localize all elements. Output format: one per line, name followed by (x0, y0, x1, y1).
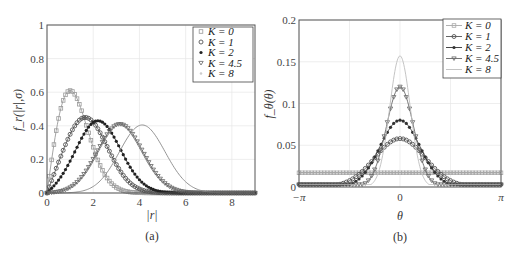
legend-marker (200, 72, 203, 75)
data-point-marker (124, 157, 127, 160)
legend-marker (452, 46, 455, 49)
data-point-marker (112, 135, 115, 138)
data-point-marker (395, 119, 398, 122)
y-tick-label: 0.4 (30, 120, 44, 132)
data-point-marker (59, 175, 62, 178)
x-tick-label: 6 (183, 196, 189, 208)
data-point-marker (115, 140, 118, 143)
data-point-marker (122, 153, 125, 156)
y-tick-label: 0.8 (30, 53, 44, 65)
y-tick-label: 0 (291, 181, 297, 193)
series-k4.5 (45, 123, 257, 195)
data-point-marker (376, 149, 379, 152)
data-point-marker (408, 126, 411, 129)
y-tick-label: 1 (39, 19, 45, 31)
data-point-marker (50, 187, 53, 190)
x-tick-label: 0 (44, 196, 50, 208)
panel-b-legend: K = 0K = 1K = 2K = 4.5K = 8 (443, 19, 501, 78)
data-point-marker (55, 181, 58, 184)
data-point-marker (82, 132, 85, 135)
x-tick-label: 4 (137, 196, 143, 208)
data-point-marker (133, 173, 136, 176)
y-tick-label: 0 (39, 187, 45, 199)
data-point-marker (398, 119, 401, 122)
series-k0 (45, 89, 257, 195)
data-point-marker (117, 144, 120, 147)
panel-a-series (45, 89, 257, 195)
y-tick-label: 0.6 (30, 86, 44, 98)
data-point-marker (52, 184, 55, 187)
legend-label: K = 8 (464, 63, 491, 75)
data-point-marker (443, 180, 446, 183)
data-point-marker (105, 125, 108, 128)
data-point-marker (357, 177, 360, 180)
data-point-marker (85, 129, 88, 132)
data-point-marker (66, 164, 69, 167)
panel-a-xlabel: |r| (146, 208, 157, 222)
data-point-marker (439, 177, 442, 180)
y-tick-label: 0.2 (282, 14, 296, 26)
data-point-marker (64, 168, 67, 171)
data-point-marker (389, 126, 392, 129)
legend-label: K = 8 (207, 67, 234, 79)
data-point-marker (405, 122, 408, 125)
data-point-marker (430, 166, 433, 169)
data-point-marker (78, 141, 81, 144)
data-point-marker (75, 146, 78, 149)
data-point-marker (138, 178, 141, 181)
panel-b-xlabel: θ (397, 209, 403, 223)
data-point-marker (57, 179, 60, 182)
panel-a-legend: K = 0K = 1K = 2K = 4.5K = 8 (193, 25, 253, 82)
data-point-marker (80, 137, 83, 140)
panel-a-caption: (a) (145, 229, 158, 243)
y-tick-label: 0.15 (277, 56, 297, 68)
x-tick-label: 0 (397, 191, 403, 203)
data-point-marker (126, 162, 129, 165)
data-point-marker (62, 172, 65, 175)
data-point-marker (427, 161, 430, 164)
data-point-marker (436, 174, 439, 177)
data-point-marker (131, 169, 134, 172)
x-tick-label: 8 (229, 196, 235, 208)
data-point-marker (392, 122, 395, 125)
data-point-marker (103, 122, 106, 125)
y-tick-label: 0.1 (282, 98, 296, 110)
legend-marker (199, 51, 202, 54)
panel-b-chart: −π0π00.050.10.150.2 θ f_θ(θ) (b) K = 0K … (262, 14, 504, 244)
y-tick-label: 0.05 (277, 139, 297, 151)
data-point-marker (373, 155, 376, 158)
data-point-marker (364, 171, 367, 174)
x-tick-label: 2 (90, 196, 96, 208)
panel-a-ylabel: f_r(|r|,σ) (11, 89, 25, 131)
y-tick-label: 0.2 (30, 153, 44, 165)
data-point-marker (370, 161, 373, 164)
data-point-marker (87, 125, 90, 128)
panel-b-caption: (b) (393, 230, 407, 244)
data-point-marker (424, 155, 427, 158)
data-point-marker (420, 149, 423, 152)
data-point-marker (129, 166, 132, 169)
panel-a-chart: 0246800.20.40.60.81 |r| f_r(|r|,σ) (a) K… (11, 19, 257, 243)
data-point-marker (433, 171, 436, 174)
data-point-marker (361, 174, 364, 177)
data-point-marker (354, 180, 357, 183)
data-point-marker (136, 176, 139, 179)
x-tick-label: π (498, 191, 504, 203)
data-point-marker (402, 119, 405, 122)
data-point-marker (71, 155, 74, 158)
panel-b-ylabel: f_θ(θ) (262, 89, 276, 118)
figure: 0246800.20.40.60.81 |r| f_r(|r|,σ) (a) K… (0, 0, 517, 257)
data-point-marker (73, 150, 76, 153)
data-point-marker (69, 160, 72, 163)
data-point-marker (367, 166, 370, 169)
